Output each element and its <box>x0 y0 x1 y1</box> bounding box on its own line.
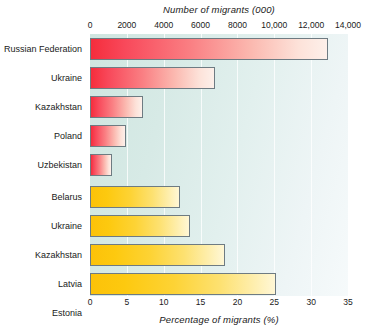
bottom-tick-label-0: 0 <box>88 297 93 307</box>
top-tick-label-2: 4000 <box>154 20 173 30</box>
bottom-tick-label-7: 35 <box>343 297 352 307</box>
bar-row <box>90 154 348 176</box>
category-labels: Russian FederationUkraineKazakhstanPolan… <box>0 34 86 296</box>
bar-row <box>90 215 348 237</box>
bar-row <box>90 38 348 60</box>
bar-poland[interactable] <box>90 125 126 147</box>
category-label-kazakhstan: Kazakhstan <box>35 244 82 266</box>
category-label-ukraine: Ukraine <box>51 67 82 89</box>
top-tick-label-7: 14,000 <box>335 20 361 30</box>
bar-group-percentage <box>90 186 348 296</box>
top-axis-title: Number of migrants (000) <box>90 4 348 15</box>
bottom-axis-title: Percentage of migrants (%) <box>90 314 348 325</box>
bottom-tick-label-4: 20 <box>233 297 242 307</box>
category-label-poland: Poland <box>54 125 82 147</box>
bar-ukraine[interactable] <box>90 67 215 89</box>
category-label-latvia: Latvia <box>58 273 82 295</box>
category-label-estonia: Estonia <box>52 302 82 324</box>
top-axis-ticks: 0200040006000800010,00012,00014,000 <box>90 20 348 33</box>
bar-uzbekistan[interactable] <box>90 154 112 176</box>
bottom-tick-label-2: 10 <box>159 297 168 307</box>
bar-latvia[interactable] <box>90 273 276 295</box>
top-tick-label-4: 8000 <box>228 20 247 30</box>
bottom-tick-label-3: 15 <box>196 297 205 307</box>
top-tick-label-3: 6000 <box>191 20 210 30</box>
bar-kazakhstan[interactable] <box>90 96 143 118</box>
plot-area <box>90 34 348 296</box>
bottom-tick-label-1: 5 <box>124 297 129 307</box>
bottom-tick-label-6: 30 <box>306 297 315 307</box>
bar-belarus[interactable] <box>90 186 180 208</box>
top-tick-label-6: 12,000 <box>298 20 324 30</box>
bottom-tick-label-5: 25 <box>270 297 279 307</box>
bar-ukraine[interactable] <box>90 215 190 237</box>
bar-group-absolute <box>90 38 348 183</box>
category-label-russian-federation: Russian Federation <box>4 38 82 60</box>
top-tick-label-5: 10,000 <box>261 20 287 30</box>
bar-russian-federation[interactable] <box>90 38 328 60</box>
category-label-ukraine: Ukraine <box>51 215 82 237</box>
bar-row <box>90 67 348 89</box>
category-label-belarus: Belarus <box>51 186 82 208</box>
top-tick-label-0: 0 <box>88 20 93 30</box>
top-tick-label-1: 2000 <box>117 20 136 30</box>
bottom-axis-ticks: 05101520253035 <box>90 297 348 310</box>
bar-kazakhstan[interactable] <box>90 244 225 266</box>
migration-bar-chart: Number of migrants (000) 020004000600080… <box>0 0 365 329</box>
bar-row <box>90 96 348 118</box>
bar-row <box>90 125 348 147</box>
bar-row <box>90 186 348 208</box>
category-label-uzbekistan: Uzbekistan <box>37 154 82 176</box>
bar-row <box>90 244 348 266</box>
bar-row <box>90 273 348 295</box>
category-label-kazakhstan: Kazakhstan <box>35 96 82 118</box>
